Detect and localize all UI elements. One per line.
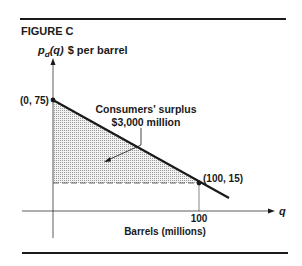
x-axis-label: q	[279, 205, 286, 217]
figure-label: FIGURE C	[21, 25, 74, 37]
figure-canvas: FIGURE C pd(q)$ per barrel q (0, 75) (10…	[0, 0, 302, 266]
point-label-100-15: (100, 15)	[203, 173, 243, 184]
surplus-annotation-value: $3,000 million	[112, 116, 181, 128]
x-tick-100: 100	[191, 213, 208, 224]
y-axis-arrow-icon	[51, 58, 56, 65]
x-axis-caption: Barrels (millions)	[124, 226, 206, 237]
surplus-annotation-title: Consumers' surplus	[95, 103, 196, 115]
point-100-15	[197, 181, 202, 186]
point-0-75	[51, 98, 56, 103]
y-axis-label: pd(q)$ per barrel	[37, 44, 128, 59]
x-axis-arrow-icon	[268, 209, 275, 214]
point-label-0-75: (0, 75)	[20, 95, 49, 106]
